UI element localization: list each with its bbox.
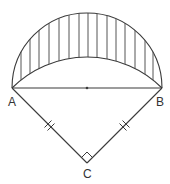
label-c: C xyxy=(83,167,92,181)
label-b: B xyxy=(156,95,164,109)
side-bc xyxy=(87,88,162,163)
geometry-figure: A B C xyxy=(0,0,170,184)
side-ac xyxy=(12,88,87,163)
label-a: A xyxy=(8,95,16,109)
hatch-shading xyxy=(21,0,153,100)
figure-svg: A B C xyxy=(0,0,170,184)
center-point-dot xyxy=(86,87,89,90)
right-angle-marker xyxy=(82,152,93,158)
inner-arc-centered-c xyxy=(12,57,162,88)
outer-semicircle-arc xyxy=(12,13,162,88)
